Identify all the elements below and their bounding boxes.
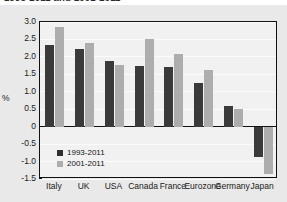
- bar: [204, 70, 213, 127]
- bar: [194, 83, 203, 127]
- bar: [264, 127, 273, 175]
- y-tick-label: -1.0: [6, 157, 36, 165]
- chart-legend: 1993-2011 2001-2011: [57, 147, 127, 169]
- x-tick-label: France: [160, 181, 186, 191]
- y-axis-ticks: 3.02.52.01.51.00.50-0.5-1.0-1.5: [4, 21, 36, 178]
- bar: [174, 54, 183, 127]
- bar: [135, 66, 144, 126]
- legend-swatch-icon: [57, 150, 63, 156]
- y-tick-label: 0.5: [6, 104, 36, 112]
- y-tick-label: -0.5: [6, 139, 36, 147]
- gridline: [40, 179, 276, 180]
- legend-swatch-icon: [57, 161, 63, 167]
- y-tick-label: -1.5: [6, 174, 36, 182]
- bar: [115, 65, 124, 127]
- bar: [145, 39, 154, 127]
- legend-label: 1993-2011: [67, 148, 105, 157]
- x-tick-label: Italy: [46, 181, 62, 191]
- x-tick-label: USA: [105, 181, 122, 191]
- x-tick-label: Japan: [251, 181, 274, 191]
- bar: [224, 106, 233, 126]
- chart-figure: 1993-2011 and 2001-2011 % 3.02.52.01.51.…: [0, 0, 287, 202]
- bar: [75, 49, 84, 127]
- x-tick-label: Canada: [128, 181, 158, 191]
- y-tick-label: 1.5: [6, 69, 36, 77]
- legend-label: 2001-2011: [67, 159, 105, 168]
- x-axis-labels: ItalyUKUSACanadaFranceEurozoneGermanyJap…: [39, 181, 277, 195]
- bar: [234, 109, 243, 126]
- y-tick-label: 2.0: [6, 52, 36, 60]
- legend-item: 1993-2011: [57, 147, 127, 158]
- legend-item: 2001-2011: [57, 158, 127, 169]
- bar: [254, 127, 263, 158]
- y-tick-label: 1.0: [6, 87, 36, 95]
- bar: [164, 67, 173, 127]
- gridline: [40, 39, 276, 40]
- y-tick-label: 0: [6, 122, 36, 130]
- x-tick-label: UK: [78, 181, 90, 191]
- y-tick-label: 3.0: [6, 17, 36, 25]
- bar: [45, 45, 54, 126]
- gridline: [40, 144, 276, 145]
- bar: [85, 43, 94, 127]
- chart-title: 1993-2011 and 2001-2011: [4, 0, 121, 3]
- bar: [55, 27, 64, 127]
- gridline: [40, 22, 276, 23]
- y-tick-label: 2.5: [6, 34, 36, 42]
- x-tick-label: Germany: [215, 181, 250, 191]
- bar: [105, 61, 114, 126]
